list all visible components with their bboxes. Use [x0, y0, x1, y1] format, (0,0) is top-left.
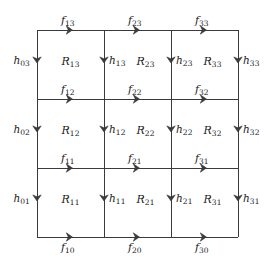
- region-label-R11: R11: [61, 194, 79, 205]
- grid-flow-diagram: f13f23f33f12f22f32f11f21f31f10f20f30h03h…: [0, 0, 273, 265]
- flow-label-h32: h32: [243, 124, 260, 135]
- flow-label-h02: h02: [13, 124, 30, 135]
- flow-label-f32: f32: [195, 84, 209, 95]
- flow-label-f11: f11: [61, 153, 75, 164]
- flow-label-h31: h31: [243, 193, 260, 204]
- region-label-R32: R32: [204, 125, 222, 136]
- flow-label-f10: f10: [61, 242, 75, 253]
- flow-label-h01: h01: [13, 193, 30, 204]
- region-label-R33: R33: [204, 56, 222, 67]
- flow-label-h21: h21: [176, 193, 193, 204]
- flow-label-f23: f23: [128, 15, 142, 26]
- flow-label-f13: f13: [61, 15, 75, 26]
- region-label-R23: R23: [137, 56, 155, 67]
- flow-label-h03: h03: [13, 55, 30, 66]
- flow-label-f21: f21: [128, 153, 142, 164]
- flow-label-f20: f20: [128, 242, 142, 253]
- flow-label-h13: h13: [109, 55, 126, 66]
- flow-label-h23: h23: [176, 55, 193, 66]
- flow-label-h22: h22: [176, 124, 193, 135]
- flow-label-f30: f30: [195, 242, 209, 253]
- region-label-R12: R12: [61, 125, 79, 136]
- region-label-R22: R22: [137, 125, 155, 136]
- region-label-R21: R21: [137, 194, 155, 205]
- region-label-R31: R31: [204, 194, 222, 205]
- flow-label-h12: h12: [109, 124, 126, 135]
- region-label-R13: R13: [61, 56, 79, 67]
- flow-label-f33: f33: [195, 15, 209, 26]
- flow-label-f12: f12: [61, 84, 75, 95]
- flow-label-f22: f22: [128, 84, 142, 95]
- flow-label-h33: h33: [243, 55, 260, 66]
- flow-label-h11: h11: [109, 193, 126, 204]
- flow-label-f31: f31: [195, 153, 209, 164]
